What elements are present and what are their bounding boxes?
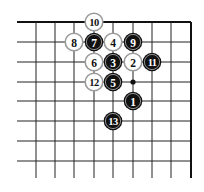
stone-black-move-9: 9 (124, 33, 143, 52)
move-number-label: 2 (130, 57, 136, 69)
move-number-label: 11 (148, 57, 157, 68)
move-number-label: 12 (89, 77, 99, 88)
star-points (130, 79, 135, 84)
stone-white-move-12: 12 (85, 73, 103, 91)
stone-white-move-8: 8 (65, 33, 83, 51)
stone-black-move-7: 7 (85, 33, 104, 52)
stone-black-move-1: 1 (124, 92, 143, 111)
stone-black-move-3: 3 (104, 53, 123, 72)
stone-black-move-13: 13 (104, 112, 123, 131)
move-number-label: 3 (110, 57, 116, 69)
move-number-label: 8 (71, 37, 77, 49)
move-number-label: 4 (110, 37, 116, 49)
move-number-label: 10 (89, 17, 99, 28)
stone-black-move-11: 11 (143, 53, 162, 72)
move-number-label: 7 (91, 37, 97, 49)
move-number-label: 9 (130, 37, 136, 49)
board-grid (17, 22, 191, 178)
star-point-icon (130, 79, 135, 84)
stone-white-move-2: 2 (124, 53, 142, 71)
move-number-label: 6 (91, 57, 97, 69)
stone-white-move-4: 4 (104, 33, 122, 51)
move-number-label: 5 (110, 77, 116, 89)
move-number-label: 13 (108, 116, 118, 127)
go-board-diagram: 12345678910111213 (0, 0, 204, 192)
stone-white-move-6: 6 (85, 53, 103, 71)
move-number-label: 1 (130, 96, 136, 108)
stone-white-move-10: 10 (85, 13, 103, 31)
stone-black-move-5: 5 (104, 73, 123, 92)
